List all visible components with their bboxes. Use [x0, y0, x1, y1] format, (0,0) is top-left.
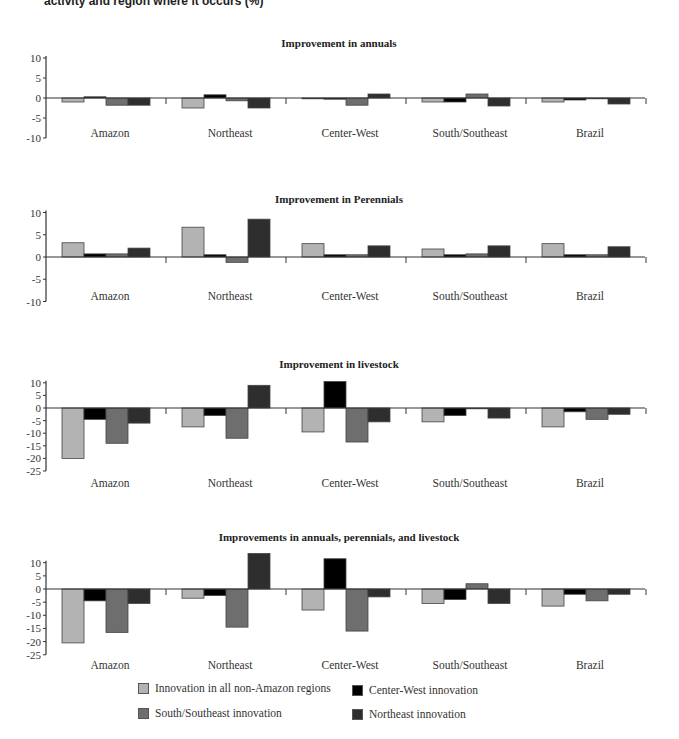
y-tick-label: -20 — [26, 452, 41, 464]
category-label: Center-West — [322, 127, 380, 139]
legend-label: Innovation in all non-Amazon regions — [155, 682, 331, 694]
bar-northeast-innovation — [128, 589, 150, 603]
bar-innovation-in-all-non-amazon-regions — [422, 408, 444, 422]
legend-label: Center-West innovation — [369, 684, 478, 696]
bar-innovation-in-all-non-amazon-regions — [302, 589, 324, 610]
panel-title: Improvement in livestock — [279, 358, 399, 370]
bar-south-southeast-innovation — [106, 408, 128, 443]
legend-label: Northeast innovation — [369, 708, 466, 720]
category-label: Center-West — [322, 659, 380, 671]
bar-northeast-innovation — [248, 219, 270, 257]
bar-innovation-in-all-non-amazon-regions — [62, 408, 84, 458]
bar-northeast-innovation — [488, 408, 510, 418]
bar-northeast-innovation — [248, 385, 270, 408]
bar-south-southeast-innovation — [346, 589, 368, 631]
bar-center-west-innovation — [84, 589, 106, 601]
y-tick-label: -10 — [26, 609, 41, 621]
bar-innovation-in-all-non-amazon-regions — [182, 98, 204, 108]
y-tick-label: 0 — [36, 251, 42, 263]
bar-center-west-innovation — [204, 408, 226, 416]
y-tick-label: -25 — [26, 649, 41, 661]
bar-center-west-innovation — [564, 589, 586, 594]
category-label: South/Southeast — [433, 659, 509, 671]
bar-south-southeast-innovation — [346, 98, 368, 105]
bar-northeast-innovation — [248, 98, 270, 108]
y-tick-label: -25 — [26, 465, 41, 477]
bar-northeast-innovation — [488, 589, 510, 603]
y-tick-label: -5 — [32, 596, 42, 608]
y-tick-label: 0 — [36, 402, 42, 414]
bar-northeast-innovation — [128, 408, 150, 423]
bar-innovation-in-all-non-amazon-regions — [182, 227, 204, 257]
category-label: Amazon — [91, 659, 130, 671]
legend-item-northeast: Northeast innovation — [352, 708, 466, 720]
category-label: South/Southeast — [433, 477, 509, 489]
y-tick-label: 10 — [30, 377, 42, 389]
y-tick-label: 0 — [36, 92, 42, 104]
category-label: Amazon — [91, 127, 130, 139]
bar-northeast-innovation — [608, 98, 630, 104]
bar-center-west-innovation — [444, 589, 466, 600]
category-label: Amazon — [91, 290, 130, 302]
bar-northeast-innovation — [488, 98, 510, 106]
bar-south-southeast-innovation — [226, 589, 248, 627]
y-tick-label: 0 — [36, 583, 42, 595]
bar-northeast-innovation — [488, 246, 510, 257]
bar-northeast-innovation — [248, 553, 270, 589]
bar-center-west-innovation — [324, 559, 346, 589]
bar-innovation-in-all-non-amazon-regions — [542, 408, 564, 427]
bar-northeast-innovation — [368, 246, 390, 257]
bar-innovation-in-all-non-amazon-regions — [62, 589, 84, 643]
y-tick-label: 5 — [36, 389, 42, 401]
y-tick-label: 10 — [30, 207, 42, 219]
bar-innovation-in-all-non-amazon-regions — [182, 589, 204, 598]
category-label: Brazil — [576, 659, 604, 671]
bar-northeast-innovation — [128, 248, 150, 257]
bar-innovation-in-all-non-amazon-regions — [182, 408, 204, 427]
category-label: Brazil — [576, 290, 604, 302]
bar-south-southeast-innovation — [106, 589, 128, 632]
bar-innovation-in-all-non-amazon-regions — [302, 408, 324, 432]
y-tick-label: 10 — [30, 52, 42, 64]
bar-center-west-innovation — [204, 589, 226, 596]
y-tick-label: 5 — [36, 570, 42, 582]
category-label: Amazon — [91, 477, 130, 489]
legend-label: South/Southeast innovation — [155, 707, 282, 719]
bar-innovation-in-all-non-amazon-regions — [422, 589, 444, 603]
bar-center-west-innovation — [444, 408, 466, 416]
y-tick-label: 10 — [30, 557, 42, 569]
y-tick-label: -20 — [26, 636, 41, 648]
legend-swatch-south-southeast — [138, 708, 149, 719]
y-tick-label: -5 — [32, 112, 42, 124]
category-label: Center-West — [322, 290, 380, 302]
bar-northeast-innovation — [128, 98, 150, 105]
bar-northeast-innovation — [608, 408, 630, 414]
category-label: Northeast — [208, 477, 254, 489]
bar-innovation-in-all-non-amazon-regions — [542, 589, 564, 606]
legend-item-non-amazon: Innovation in all non-Amazon regions — [138, 682, 331, 694]
category-label: Northeast — [208, 290, 254, 302]
category-label: South/Southeast — [433, 127, 509, 139]
y-tick-label: -10 — [26, 132, 41, 144]
y-tick-label: 5 — [36, 229, 42, 241]
bar-south-southeast-innovation — [226, 408, 248, 438]
bar-northeast-innovation — [368, 589, 390, 597]
category-label: Northeast — [208, 127, 254, 139]
y-tick-label: -10 — [26, 427, 41, 439]
bar-northeast-innovation — [608, 589, 630, 594]
panel-title: Improvement in Perennials — [275, 193, 404, 205]
legend-swatch-non-amazon — [138, 683, 149, 694]
legend: Innovation in all non-Amazon regions Cen… — [138, 682, 538, 732]
bar-center-west-innovation — [84, 408, 106, 419]
bar-south-southeast-innovation — [466, 584, 488, 589]
panel-title: Improvements in annuals, perennials, and… — [219, 531, 461, 543]
bar-innovation-in-all-non-amazon-regions — [62, 243, 84, 257]
legend-item-center-west: Center-West innovation — [352, 684, 478, 696]
bar-south-southeast-innovation — [346, 408, 368, 442]
y-tick-label: -5 — [32, 415, 42, 427]
y-tick-label: -15 — [26, 440, 41, 452]
bar-south-southeast-innovation — [586, 589, 608, 601]
y-tick-label: -10 — [26, 296, 41, 308]
category-label: Brazil — [576, 477, 604, 489]
bar-innovation-in-all-non-amazon-regions — [302, 244, 324, 257]
